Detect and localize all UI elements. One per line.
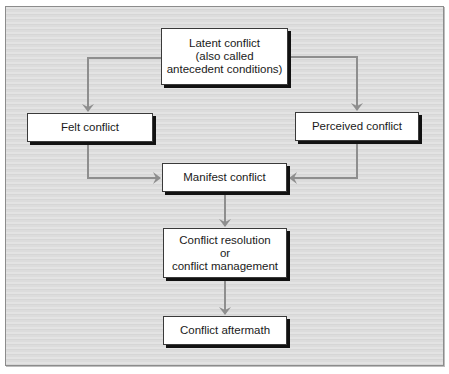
edge-latent-to-perceived xyxy=(287,57,357,110)
node-label: Manifest conflict xyxy=(183,171,265,184)
node-label-line: Latent conflict xyxy=(189,37,260,50)
node-conflict-resolution: Conflict resolution or conflict manageme… xyxy=(163,228,287,278)
node-label: Perceived conflict xyxy=(312,120,402,133)
edge-felt-to-manifest xyxy=(88,143,160,178)
node-label-line: or xyxy=(220,247,230,260)
node-label-line: antecedent conditions) xyxy=(167,63,283,76)
node-label: Conflict aftermath xyxy=(180,324,270,337)
node-perceived-conflict: Perceived conflict xyxy=(295,112,419,141)
node-manifest-conflict: Manifest conflict xyxy=(162,163,287,192)
edge-perceived-to-manifest xyxy=(290,142,357,178)
node-conflict-aftermath: Conflict aftermath xyxy=(163,316,287,345)
node-label: Felt conflict xyxy=(61,121,119,134)
node-label-line: (also called xyxy=(195,50,253,63)
node-felt-conflict: Felt conflict xyxy=(27,113,153,142)
node-label-line: conflict management xyxy=(172,260,278,273)
node-label-line: Conflict resolution xyxy=(179,234,270,247)
edge-latent-to-felt xyxy=(88,58,161,111)
node-latent-conflict: Latent conflict (also called antecedent … xyxy=(161,28,288,85)
